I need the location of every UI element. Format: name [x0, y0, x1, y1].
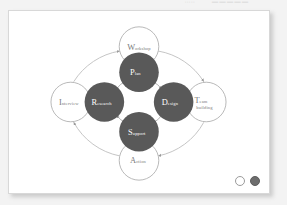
legend-open-circle-icon[interactable]	[235, 176, 245, 186]
header-strip: ····· —————	[0, 0, 287, 10]
header-faint-text-left: ·····	[185, 0, 195, 5]
node-support[interactable]: Support	[119, 112, 159, 152]
node-support-circle[interactable]	[119, 112, 159, 152]
node-design-circle[interactable]	[154, 82, 194, 122]
inner-nodes: Plan Design Support	[85, 53, 194, 152]
header-faint-text-right: —————	[212, 0, 250, 6]
legend	[235, 176, 260, 186]
node-design[interactable]: Design	[154, 82, 194, 122]
legend-filled-circle-icon[interactable]	[250, 176, 260, 186]
outer-arc-action-to-interview	[74, 122, 120, 156]
node-plan[interactable]: Plan	[119, 53, 159, 93]
outer-arc-team-building-to-action	[158, 122, 204, 156]
outer-nodes: Workshop Team building Action	[51, 27, 226, 180]
cycle-diagram: Workshop Team building Action	[9, 11, 269, 193]
slide-card: Workshop Team building Action	[8, 10, 270, 194]
page-root: ····· —————	[0, 0, 287, 205]
node-plan-circle[interactable]	[119, 53, 159, 93]
node-research-circle[interactable]	[85, 82, 125, 122]
node-research[interactable]: Research	[85, 82, 125, 122]
outer-arc-interview-to-workshop	[74, 51, 120, 82]
outer-arc-workshop-to-team-building	[158, 51, 204, 82]
